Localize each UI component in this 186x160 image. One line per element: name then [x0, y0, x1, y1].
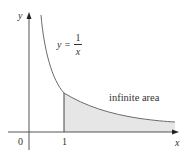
fraction-denominator: x — [76, 46, 80, 57]
x-axis-label: x — [175, 138, 179, 148]
fraction-numerator: 1 — [76, 32, 81, 43]
x-axis-arrow-icon — [172, 130, 179, 135]
equation-lhs: y = — [57, 40, 71, 50]
y-axis-arrow-icon — [27, 12, 32, 19]
origin-label: 0 — [18, 137, 23, 147]
region-label: infinite area — [109, 93, 159, 104]
curve-1-over-x — [41, 15, 175, 122]
y-axis-label: y — [18, 11, 22, 21]
x-tick-label-1: 1 — [62, 137, 67, 147]
equation-fraction: 1 x — [74, 32, 82, 57]
fraction-bar — [74, 44, 82, 45]
graph-canvas — [0, 0, 186, 160]
